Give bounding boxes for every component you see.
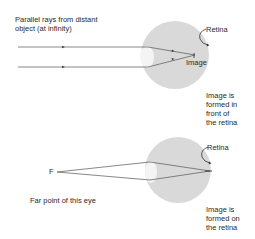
bottom-retina-label: Retina bbox=[207, 143, 229, 152]
bottom-eye bbox=[57, 137, 212, 203]
far-point-marker: F bbox=[49, 167, 54, 176]
top-lens bbox=[140, 46, 154, 68]
bottom-ray-upper bbox=[57, 162, 150, 172]
bottom-note: Image is formed on the retina bbox=[206, 205, 240, 232]
arrow-icon bbox=[62, 66, 65, 68]
arrow-icon bbox=[62, 46, 65, 48]
far-point-caption: Far point of this eye bbox=[30, 196, 96, 205]
bottom-ray-lower bbox=[57, 172, 150, 180]
top-retina-label: Retina bbox=[206, 25, 228, 34]
top-note: Image is formed in front of the retina bbox=[206, 91, 237, 127]
top-image-label: Image bbox=[186, 58, 207, 67]
top-caption: Parallel rays from distant object (at in… bbox=[15, 15, 98, 33]
